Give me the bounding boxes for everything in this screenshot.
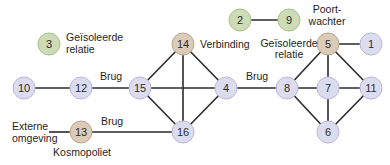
node-10: 10 (13, 77, 35, 99)
connection-label: Verbinding (200, 38, 250, 50)
node-label: 3 (46, 38, 52, 50)
node-6: 6 (317, 121, 339, 143)
bridge-label-left: Brug (100, 70, 122, 82)
node-11: 11 (360, 77, 382, 99)
node-5: 5 (317, 33, 339, 55)
external-environment-label-2: omgeving (12, 132, 58, 144)
node-12: 12 (70, 77, 92, 99)
network-diagram: 31429511012154871113166 Geïsoleerde rela… (0, 0, 390, 165)
node-label: 1 (368, 38, 374, 50)
node-label: 6 (325, 126, 331, 138)
node-8: 8 (276, 77, 298, 99)
node-label: 2 (237, 14, 243, 26)
node-label: 15 (134, 82, 146, 94)
isolated-relation-label-right-2: relatie (275, 48, 304, 60)
node-2: 2 (229, 9, 251, 31)
bridge-label-bottom: Brug (101, 115, 123, 127)
node-label: 8 (284, 82, 290, 94)
node-label: 11 (365, 82, 376, 94)
node-label: 14 (177, 38, 189, 50)
isolated-relation-label-left: Geïsoleerde (66, 31, 123, 43)
external-environment-label: Externe (12, 120, 48, 132)
isolated-relation-label-left-2: relatie (66, 43, 95, 55)
bridge-label-middle: Brug (246, 70, 268, 82)
nodes: 31429511012154871113166 (13, 9, 382, 143)
node-3: 3 (38, 33, 60, 55)
node-label: 4 (223, 82, 229, 94)
gatekeeper-label-2: wachter (308, 15, 346, 27)
node-9: 9 (278, 9, 300, 31)
node-label: 16 (177, 126, 189, 138)
node-label: 12 (75, 82, 87, 94)
node-16: 16 (172, 121, 194, 143)
node-7: 7 (317, 77, 339, 99)
node-15: 15 (129, 77, 151, 99)
node-label: 5 (325, 38, 331, 50)
node-label: 10 (18, 82, 30, 94)
cosmopolitan-label: Kosmopoliet (53, 146, 111, 158)
node-1: 1 (360, 33, 382, 55)
node-14: 14 (172, 33, 194, 55)
node-13: 13 (70, 121, 92, 143)
node-label: 13 (75, 126, 87, 138)
node-label: 9 (286, 14, 292, 26)
node-label: 7 (325, 82, 331, 94)
node-4: 4 (215, 77, 237, 99)
gatekeeper-label: Poort- (313, 3, 342, 15)
